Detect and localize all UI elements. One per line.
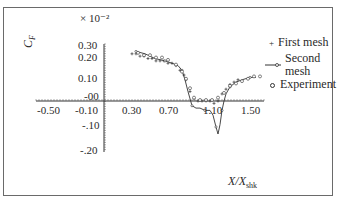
series-experiment-point bbox=[199, 99, 202, 102]
series-experiment-point bbox=[247, 77, 250, 80]
plot-area bbox=[0, 0, 340, 202]
legend-item-experiment: Experiment bbox=[270, 78, 336, 91]
y-tick-label: -.10 bbox=[82, 120, 99, 131]
x-tick-label: 1.10 bbox=[203, 105, 222, 116]
series-experiment-point bbox=[189, 87, 192, 90]
legend-item-second-mesh: Second mesh bbox=[268, 52, 320, 77]
y-multiplier: × 10⁻² bbox=[80, 13, 109, 24]
y-tick-label: -.20 bbox=[80, 145, 97, 156]
series-experiment-point bbox=[181, 70, 184, 73]
series-first-mesh-point bbox=[225, 88, 228, 91]
series-experiment-point bbox=[253, 75, 256, 78]
series-experiment-point bbox=[259, 75, 262, 78]
x-tick-label: 1.50 bbox=[241, 105, 260, 116]
series-experiment-point bbox=[193, 96, 196, 99]
series-experiment-point bbox=[143, 54, 146, 57]
series-experiment-point bbox=[235, 82, 238, 85]
x-tick-label: -0.50 bbox=[37, 105, 60, 116]
x-tick-label: 0.70 bbox=[159, 105, 178, 116]
series-experiment-point bbox=[211, 99, 214, 102]
y-tick-label: 0.10 bbox=[78, 73, 97, 84]
series-experiment-point bbox=[217, 96, 220, 99]
x-tick-label: -0.10 bbox=[75, 105, 98, 116]
series-experiment-point bbox=[161, 56, 164, 59]
series-experiment-point bbox=[229, 84, 232, 87]
series-experiment-point bbox=[149, 54, 152, 57]
series-first-mesh-point bbox=[139, 55, 142, 58]
x-axis-label: X/Xshk bbox=[228, 175, 257, 190]
x-tick-label: 0.30 bbox=[122, 105, 141, 116]
circle-marker-icon bbox=[270, 83, 275, 88]
series-experiment-point bbox=[167, 58, 170, 61]
series-experiment-point bbox=[223, 91, 226, 94]
legend-item-first-mesh: +First mesh bbox=[269, 36, 328, 49]
plus-marker-icon: + bbox=[269, 38, 274, 48]
series-first-mesh-point bbox=[147, 57, 150, 60]
y-tick-label: 0.20 bbox=[78, 52, 97, 63]
line-dot-marker-icon bbox=[265, 59, 285, 71]
series-experiment-point bbox=[205, 99, 208, 102]
series-experiment-point bbox=[137, 51, 140, 54]
y-tick-label: -00 bbox=[84, 91, 99, 102]
series-first-mesh-point bbox=[155, 59, 158, 62]
y-tick-label: 0.30 bbox=[78, 40, 97, 51]
series-experiment-point bbox=[241, 80, 244, 83]
series-first-mesh-point bbox=[131, 52, 134, 55]
series-first-mesh-point bbox=[189, 90, 192, 93]
series-experiment-point bbox=[185, 77, 188, 80]
series-experiment-point bbox=[175, 63, 178, 66]
y-axis-label: CF bbox=[22, 35, 37, 48]
series-second-mesh bbox=[136, 51, 256, 134]
series-experiment-point bbox=[155, 56, 158, 59]
